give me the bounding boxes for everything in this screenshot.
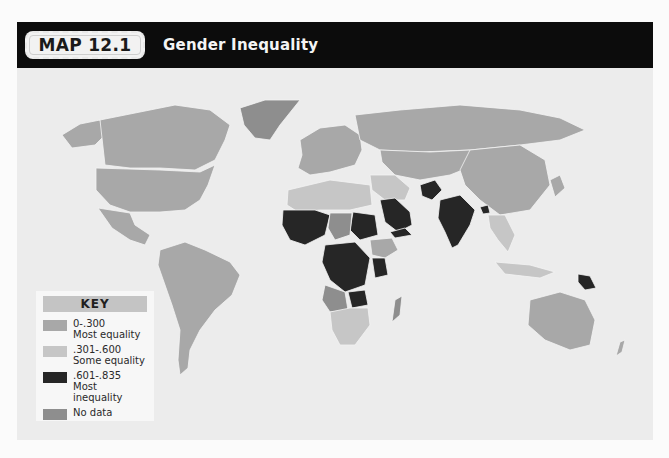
region-mexico bbox=[98, 208, 150, 245]
region-middle-east bbox=[370, 175, 410, 200]
region-chad bbox=[328, 213, 352, 240]
region-australia bbox=[528, 292, 595, 350]
legend-title: KEY bbox=[43, 296, 147, 312]
map-title: Gender Inequality bbox=[163, 36, 318, 54]
region-japan bbox=[550, 175, 565, 197]
region-central-africa bbox=[322, 242, 370, 292]
region-russia bbox=[355, 105, 585, 152]
region-india bbox=[438, 195, 475, 248]
region-greenland bbox=[240, 100, 300, 140]
region-indonesia bbox=[495, 262, 555, 278]
region-europe bbox=[298, 125, 362, 175]
region-southeast-asia bbox=[488, 215, 515, 252]
legend-item-most-equality: 0-.300 Most equality bbox=[43, 318, 147, 340]
region-southern-africa bbox=[330, 308, 370, 345]
region-usa bbox=[96, 165, 215, 212]
region-yemen bbox=[390, 228, 412, 238]
legend-item-no-data: No data bbox=[43, 407, 147, 420]
legend-item-most-inequality: .601-.835 Most inequality bbox=[43, 370, 147, 403]
map-header: MAP 12.1 Gender Inequality bbox=[17, 22, 653, 68]
map-panel: KEY 0-.300 Most equality .301-.600 Some … bbox=[17, 68, 653, 440]
region-west-africa bbox=[282, 210, 330, 245]
region-north-africa bbox=[287, 180, 372, 212]
region-afghanistan bbox=[420, 180, 442, 200]
legend-range: .301-.600 bbox=[73, 344, 145, 355]
region-madagascar bbox=[392, 296, 402, 322]
region-ethiopia bbox=[370, 238, 398, 258]
region-sudan bbox=[350, 212, 378, 240]
region-kenya bbox=[372, 258, 388, 278]
legend-label: Most equality bbox=[73, 329, 140, 340]
legend-label: Some equality bbox=[73, 355, 145, 366]
swatch-some-equality bbox=[43, 346, 67, 357]
map-legend: KEY 0-.300 Most equality .301-.600 Some … bbox=[36, 291, 154, 421]
region-new-zealand bbox=[616, 340, 625, 356]
swatch-most-inequality bbox=[43, 372, 67, 383]
region-canada bbox=[100, 105, 230, 170]
region-alaska bbox=[62, 120, 105, 148]
map-number: MAP 12.1 bbox=[39, 35, 132, 55]
legend-item-some-equality: .301-.600 Some equality bbox=[43, 344, 147, 366]
legend-range: .601-.835 bbox=[73, 370, 147, 381]
legend-range: 0-.300 bbox=[73, 318, 140, 329]
region-zambia bbox=[348, 290, 368, 308]
region-saudi-arabia bbox=[380, 198, 412, 232]
map-number-badge: MAP 12.1 bbox=[25, 31, 145, 59]
swatch-most-equality bbox=[43, 320, 67, 331]
region-south-america bbox=[158, 242, 240, 375]
region-bangladesh bbox=[480, 205, 490, 214]
region-papua-new-guinea bbox=[578, 274, 596, 290]
legend-label: No data bbox=[73, 407, 112, 418]
region-china bbox=[460, 145, 550, 215]
swatch-no-data bbox=[43, 409, 67, 420]
legend-label: Most inequality bbox=[73, 381, 147, 403]
